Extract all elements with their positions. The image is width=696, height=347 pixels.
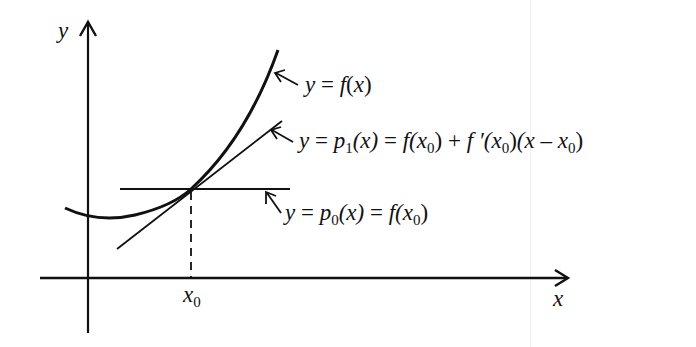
label-p0: y = p0(x) = f(x0): [285, 200, 428, 229]
p0-pointer-arrow-icon: [266, 192, 281, 213]
f-curve: [65, 50, 278, 218]
x-axis-label: x: [553, 286, 563, 312]
y-axis: [80, 22, 96, 333]
p1-pointer-arrow-icon: [271, 127, 293, 142]
y-axis-label: y: [58, 18, 68, 44]
x0-tick-label: x0: [183, 282, 201, 311]
taylor-approximation-diagram: [0, 0, 696, 347]
x-axis: [40, 270, 568, 286]
label-p1: y = p1(x) = f(x0) + f ′(x0)(x – x0): [299, 128, 583, 157]
label-f: y = f(x): [305, 72, 372, 98]
f-pointer-arrow-icon: [275, 70, 298, 85]
p1-tangent-line: [117, 121, 282, 249]
